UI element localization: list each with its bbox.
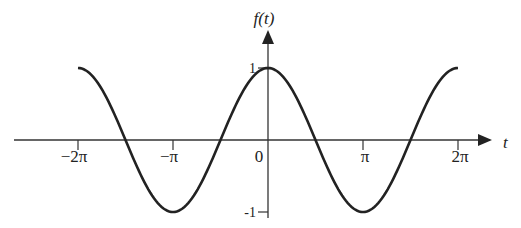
- axes: [14, 30, 492, 218]
- x-tick-label: −2π: [61, 147, 88, 166]
- y-axis-arrow: [262, 30, 274, 44]
- x-tick-label: π: [361, 147, 370, 166]
- y-tick-label: 1: [249, 61, 256, 76]
- x-tick-label: 2π: [451, 147, 469, 166]
- y-tick-label: -1: [244, 205, 256, 220]
- origin-label: 0: [255, 147, 264, 166]
- x-axis-arrow: [478, 134, 492, 146]
- x-tick-label: −π: [160, 147, 179, 166]
- y-axis-label: f(t): [254, 9, 275, 28]
- cosine-chart: −2π−ππ2π01-1f(t)t: [0, 0, 521, 228]
- labels: −2π−ππ2π01-1f(t)t: [61, 9, 509, 220]
- x-axis-label: t: [503, 133, 509, 152]
